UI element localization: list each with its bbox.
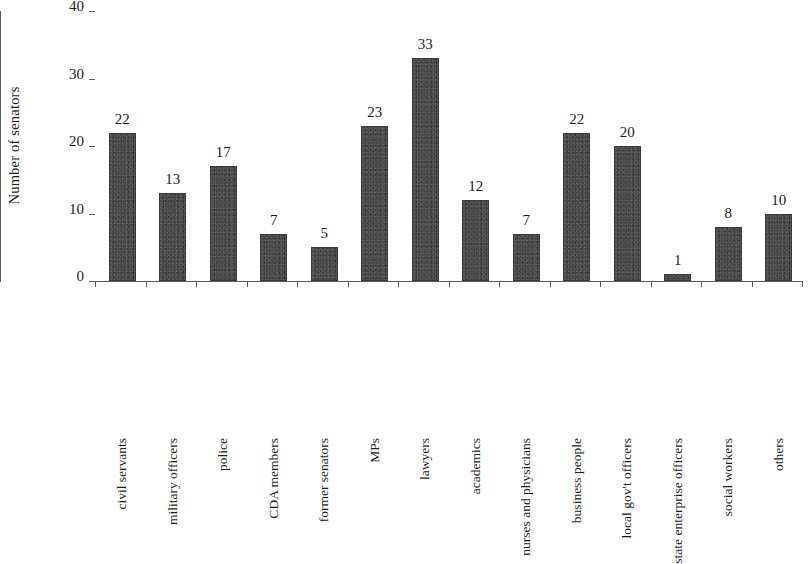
y-axis-tick-label: 20 [40,130,84,152]
x-axis-category-label-text: police [215,438,231,471]
x-axis-tick-mark [651,281,652,287]
x-axis-category-label: MPs [367,292,383,442]
x-axis-tick-mark [348,281,349,287]
bar-value-label: 7 [504,212,548,228]
x-axis-category-label-text: military officers [165,438,181,525]
x-axis-category-label: others [771,292,787,442]
x-axis-tick-mark [499,281,500,287]
x-axis-category-label: state enterprise officers [670,292,686,442]
bar-value-label: 5 [302,225,346,241]
bar-value-label: 7 [252,212,296,228]
bar [210,166,237,281]
x-axis-category-label: business people [569,292,585,442]
x-axis-category-label-text: former senators [316,438,332,522]
bar-value-label: 8 [706,205,750,221]
y-axis-tick-mark [89,214,95,215]
x-axis-category-label: former senators [316,292,332,442]
x-axis-category-label-text: social workers [720,438,736,516]
bar [563,133,590,282]
y-axis-title-text: Number of senators [7,86,24,204]
bar [159,193,186,281]
x-axis-category-label-text: CDA members [266,438,282,519]
x-axis-category-label: social workers [720,292,736,442]
x-axis-tick-mark [297,281,298,287]
y-axis-title: Number of senators [0,0,30,290]
y-axis-tick-mark [89,11,95,12]
x-axis-tick-mark [550,281,551,287]
bar-value-label: 13 [151,171,195,187]
x-axis-category-label-text: state enterprise officers [670,438,686,564]
bar-value-label: 1 [656,252,700,268]
x-axis-category-label-text: others [771,438,787,471]
y-axis-tick-mark [89,146,95,147]
bar [664,274,691,281]
x-axis-category-label: CDA members [266,292,282,442]
bar [260,234,287,281]
bar [412,58,439,281]
bar-value-label: 12 [454,178,498,194]
x-axis-category-label: local gov't officers [619,292,635,442]
y-axis-line [0,11,1,282]
bar [765,214,792,282]
x-axis-tick-mark [752,281,753,287]
bar [361,126,388,281]
x-axis-tick-mark [600,281,601,287]
x-axis-tick-mark [146,281,147,287]
x-axis-category-label-text: local gov't officers [619,438,635,538]
bar [109,133,136,282]
bar [462,200,489,281]
x-axis-tick-mark [398,281,399,287]
bar [614,146,641,281]
x-axis-category-label-text: MPs [367,438,383,463]
x-axis-category-label: academics [468,292,484,442]
x-axis-tick-mark [449,281,450,287]
bar-value-label: 10 [757,192,801,208]
bar-value-label: 22 [555,111,599,127]
y-axis-tick-label: 40 [40,0,84,17]
x-axis-tick-mark [701,281,702,287]
x-axis-category-label: military officers [165,292,181,442]
bar [311,247,338,281]
x-axis-category-label-text: lawyers [417,438,433,480]
x-axis-category-label-text: nurses and physicians [518,438,534,556]
x-axis-category-label-text: civil servants [114,438,130,510]
y-axis-tick-label: 10 [40,198,84,220]
x-axis-tick-mark [247,281,248,287]
x-axis-tick-mark [802,281,803,287]
x-axis-category-label: lawyers [417,292,433,442]
x-axis-category-label: police [215,292,231,442]
bar-value-label: 17 [201,144,245,160]
y-axis-tick-label: 0 [40,265,84,287]
bar-value-label: 20 [605,124,649,140]
bar [513,234,540,281]
x-axis-category-label-text: academics [468,438,484,494]
x-axis-category-label: nurses and physicians [518,292,534,442]
bar-value-label: 22 [100,111,144,127]
x-axis-tick-mark [95,281,96,287]
bar-value-label: 33 [403,36,447,52]
y-axis-tick-mark [89,79,95,80]
x-axis-tick-mark [196,281,197,287]
bar-value-label: 23 [353,104,397,120]
y-axis-tick-label: 30 [40,63,84,85]
x-axis-category-label: civil servants [114,292,130,442]
bar [715,227,742,281]
x-axis-category-label-text: business people [569,438,585,523]
